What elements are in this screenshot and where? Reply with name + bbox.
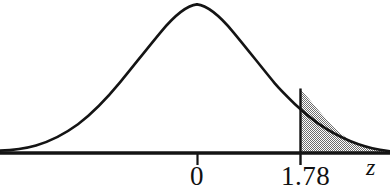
axis-variable-label: z	[366, 155, 375, 179]
figure-canvas: 0 1.78 z	[0, 0, 390, 190]
critical-value-tick-label: 1.78	[281, 163, 330, 190]
mean-tick-label: 0	[190, 163, 204, 190]
